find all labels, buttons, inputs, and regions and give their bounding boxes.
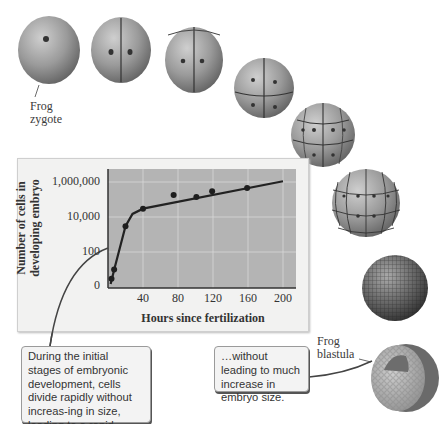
data-point xyxy=(140,206,146,212)
x-tick-label: 200 xyxy=(268,291,298,306)
callout-right: …without leading to much increase in emb… xyxy=(214,346,309,392)
x-tick-label: 120 xyxy=(198,291,228,306)
plot-area xyxy=(108,169,296,288)
x-axis-title: Hours since fertilization xyxy=(108,311,298,326)
x-tick-label: 160 xyxy=(233,291,263,306)
data-point xyxy=(193,194,199,200)
data-point xyxy=(111,267,117,273)
x-tick-label: 80 xyxy=(163,291,193,306)
data-point xyxy=(244,185,250,191)
data-point xyxy=(171,192,177,198)
data-point xyxy=(209,188,215,194)
data-point xyxy=(109,276,115,282)
callout-left: During the initial stages of embryonic d… xyxy=(21,346,151,423)
y-axis-title: Number of cells in developing embryo xyxy=(14,163,42,293)
data-point xyxy=(123,223,129,229)
x-tick-label: 40 xyxy=(128,291,158,306)
